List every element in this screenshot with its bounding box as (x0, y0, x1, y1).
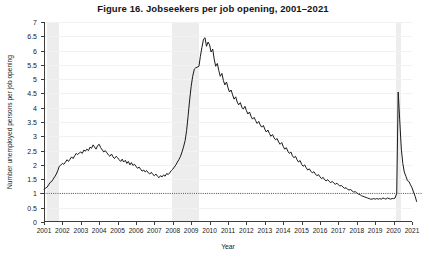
x-tick-label: 2021 (405, 227, 420, 234)
y-tick-label: 5.5 (27, 61, 37, 68)
y-tick-label: 7 (33, 19, 37, 26)
y-tick-label: 4 (33, 104, 37, 111)
x-tick-label: 2001 (37, 227, 52, 234)
plot-area (44, 22, 412, 222)
y-tick-label: 6 (33, 47, 37, 54)
x-tick-mark (44, 222, 45, 225)
x-tick-mark (228, 222, 229, 225)
x-tick-mark (394, 222, 395, 225)
x-tick-mark (136, 222, 137, 225)
x-tick-mark (375, 222, 376, 225)
x-tick-mark (320, 222, 321, 225)
x-tick-mark (62, 222, 63, 225)
x-tick-label: 2002 (55, 227, 70, 234)
x-tick-mark (357, 222, 358, 225)
x-tick-mark (302, 222, 303, 225)
chart-title: Figure 16. Jobseekers per job opening, 2… (0, 3, 426, 14)
x-tick-mark (246, 222, 247, 225)
x-tick-label: 2008 (165, 227, 180, 234)
x-tick-label: 2003 (73, 227, 88, 234)
x-tick-label: 2020 (386, 227, 401, 234)
x-tick-mark (210, 222, 211, 225)
y-tick-label: 0.5 (27, 204, 37, 211)
x-tick-label: 2010 (202, 227, 217, 234)
x-tick-mark (412, 222, 413, 225)
x-tick-label: 2016 (313, 227, 328, 234)
x-tick-label: 2006 (129, 227, 144, 234)
x-tick-mark (81, 222, 82, 225)
x-tick-mark (118, 222, 119, 225)
x-tick-mark (338, 222, 339, 225)
y-tick-label: 1.5 (27, 176, 37, 183)
x-tick-label: 2015 (294, 227, 309, 234)
y-tick-label: 3.5 (27, 119, 37, 126)
y-tick-label: 2.5 (27, 147, 37, 154)
y-tick-label: 4.5 (27, 90, 37, 97)
y-tick-label: 3 (33, 133, 37, 140)
x-tick-mark (283, 222, 284, 225)
x-axis-title: Year (44, 243, 412, 250)
x-tick-label: 2013 (257, 227, 272, 234)
series-line-0 (44, 38, 417, 202)
x-tick-label: 2019 (368, 227, 383, 234)
x-tick-label: 2007 (147, 227, 162, 234)
figure-container: Figure 16. Jobseekers per job opening, 2… (0, 0, 426, 264)
y-tick-label: 0 (33, 219, 37, 226)
y-tick-label: 5 (33, 76, 37, 83)
y-tick-label: 2 (33, 161, 37, 168)
y-tick-label: 1 (33, 190, 37, 197)
x-tick-label: 2017 (331, 227, 346, 234)
x-tick-label: 2012 (239, 227, 254, 234)
y-axis: 00.511.522.533.544.555.566.57 (0, 22, 44, 222)
x-tick-mark (265, 222, 266, 225)
x-tick-mark (173, 222, 174, 225)
x-tick-mark (191, 222, 192, 225)
x-tick-label: 2005 (110, 227, 125, 234)
x-axis: 2001200220032004200520062007200820092010… (44, 222, 412, 242)
x-tick-label: 2014 (276, 227, 291, 234)
x-tick-label: 2004 (92, 227, 107, 234)
x-tick-label: 2018 (349, 227, 364, 234)
data-series-line (44, 22, 412, 222)
x-tick-mark (154, 222, 155, 225)
x-tick-label: 2011 (221, 227, 235, 234)
x-tick-label: 2009 (184, 227, 199, 234)
x-tick-mark (99, 222, 100, 225)
y-tick-label: 6.5 (27, 33, 37, 40)
